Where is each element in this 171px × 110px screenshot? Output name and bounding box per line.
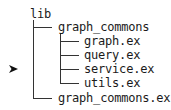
tree-file-service[interactable]: service.ex — [84, 62, 154, 76]
tree-connector-branch — [33, 27, 52, 28]
tree-connector-branch — [33, 98, 52, 99]
tree-root-lib[interactable]: lib — [30, 7, 51, 21]
tree-connector-vertical — [33, 20, 34, 98]
tree-connector-branch — [60, 69, 79, 70]
tree-connector-branch — [60, 83, 79, 84]
tree-connector-branch — [60, 41, 79, 42]
tree-file-query[interactable]: query.ex — [84, 48, 140, 62]
tree-file-utils[interactable]: utils.ex — [84, 76, 140, 90]
arrow-right-icon — [9, 65, 18, 73]
tree-file-graph[interactable]: graph.ex — [84, 34, 140, 48]
tree-folder-graph-commons[interactable]: graph_commons — [58, 20, 149, 34]
tree-connector-branch — [60, 55, 79, 56]
tree-file-graph-commons[interactable]: graph_commons.ex — [58, 91, 170, 105]
